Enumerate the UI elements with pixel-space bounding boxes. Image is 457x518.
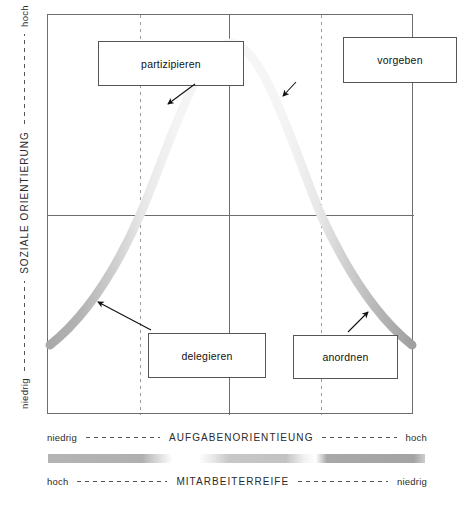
maturity-axis-dash-right	[298, 481, 388, 482]
maturity-axis-label: hoch MITARBEITERREIFE niedrig	[47, 473, 427, 489]
quadrant-label-partizipieren[interactable]: partizipieren	[98, 41, 244, 86]
y-axis-high-label: hoch	[19, 5, 30, 27]
x-axis-dash-low	[86, 437, 160, 438]
y-axis-label: niedrig SOZIALE ORIENTIERUNG hoch	[13, 5, 35, 409]
y-axis-low-label: niedrig	[19, 378, 30, 409]
y-axis-title: SOZIALE ORIENTIERUNG	[19, 131, 30, 274]
quadrant-label-partizipieren-text: partizipieren	[141, 58, 201, 70]
maturity-axis-title: MITARBEITERREIFE	[176, 476, 289, 487]
y-axis-dash-low	[24, 281, 25, 371]
maturity-gradient-bar	[48, 454, 425, 463]
chart-plot-area: partizipieren vorgeben delegieren anordn…	[47, 14, 413, 414]
x-axis-title: AUFGABENORIENTIEUNG	[169, 432, 313, 443]
quadrant-label-anordnen[interactable]: anordnen	[293, 335, 398, 379]
x-axis-high-label: hoch	[406, 432, 427, 443]
quadrant-label-vorgeben[interactable]: vorgeben	[343, 37, 457, 83]
quadrant-label-delegieren[interactable]: delegieren	[148, 333, 266, 378]
y-axis-dash-high	[24, 34, 25, 124]
quadrant-label-vorgeben-text: vorgeben	[377, 54, 422, 66]
maturity-axis-left-label: hoch	[47, 476, 68, 487]
figure-caption	[20, 505, 420, 517]
maturity-axis-right-label: niedrig	[397, 476, 427, 487]
quadrant-label-anordnen-text: anordnen	[323, 351, 369, 363]
quadrant-label-delegieren-text: delegieren	[181, 350, 232, 362]
x-axis-low-label: niedrig	[47, 432, 77, 443]
x-axis-label: niedrig AUFGABENORIENTIEUNG hoch	[47, 429, 427, 445]
x-axis-dash-high	[322, 437, 396, 438]
maturity-axis-dash-left	[77, 481, 167, 482]
